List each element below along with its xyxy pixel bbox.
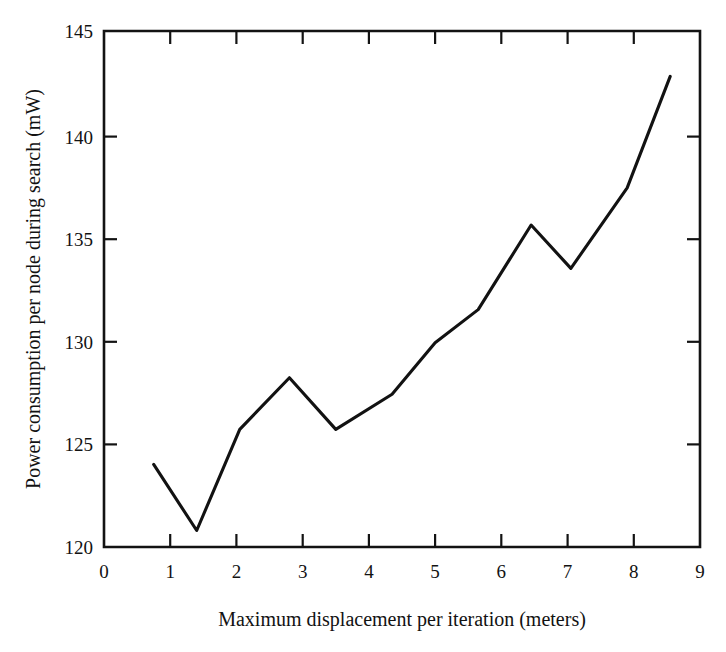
x-axis-ticks-top <box>170 31 634 44</box>
data-series-line <box>154 76 671 530</box>
x-tick-label-8: 8 <box>629 561 639 582</box>
y-tick-label-140: 140 <box>65 127 94 148</box>
y-axis-title: Power consumption per node during search… <box>22 89 45 489</box>
x-tick-label-1: 1 <box>165 561 175 582</box>
x-tick-label-5: 5 <box>430 561 440 582</box>
plot-frame <box>104 31 700 547</box>
x-tick-label-7: 7 <box>563 561 573 582</box>
x-tick-label-4: 4 <box>364 561 374 582</box>
x-tick-label-2: 2 <box>232 561 242 582</box>
y-tick-label-145: 145 <box>65 21 94 42</box>
y-tick-label-130: 130 <box>65 332 94 353</box>
y-tick-label-120: 120 <box>65 537 94 558</box>
x-tick-label-0: 0 <box>99 561 109 582</box>
y-axis-ticks-right <box>687 137 700 445</box>
x-tick-label-9: 9 <box>695 561 705 582</box>
y-tick-label-125: 125 <box>65 434 94 455</box>
x-tick-label-6: 6 <box>497 561 507 582</box>
line-chart: 120 125 130 135 140 145 0 1 2 3 4 5 6 7 … <box>0 0 726 652</box>
x-axis-ticks <box>170 534 634 547</box>
x-tick-label-3: 3 <box>298 561 308 582</box>
x-axis-title: Maximum displacement per iteration (mete… <box>218 608 586 631</box>
y-tick-labels: 120 125 130 135 140 145 <box>65 21 94 558</box>
y-axis-ticks <box>104 137 117 445</box>
y-tick-label-135: 135 <box>65 229 94 250</box>
chart-figure: 120 125 130 135 140 145 0 1 2 3 4 5 6 7 … <box>0 0 726 652</box>
x-tick-labels: 0 1 2 3 4 5 6 7 8 9 <box>99 561 705 582</box>
